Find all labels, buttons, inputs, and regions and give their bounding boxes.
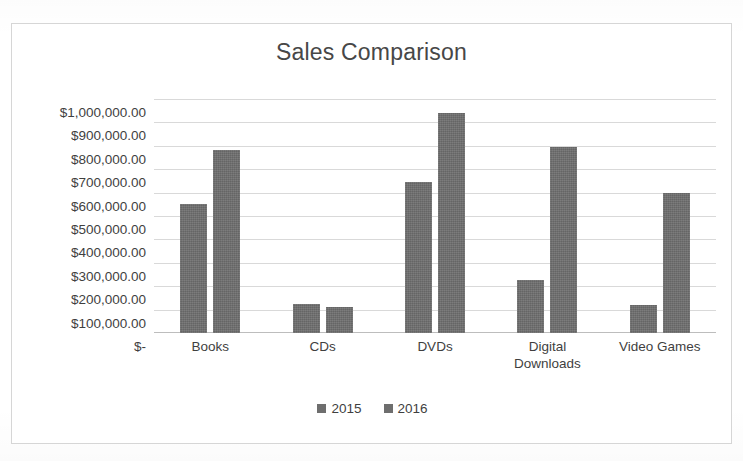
plot-wrapper: $1,000,000.00$900,000.00$800,000.00$700,… — [12, 24, 733, 445]
bar-group — [491, 99, 603, 333]
y-axis-tick-label: $100,000.00 — [71, 317, 146, 331]
bar-2016[interactable] — [326, 307, 353, 333]
y-axis-tick-label: $800,000.00 — [71, 153, 146, 167]
bar-2016[interactable] — [213, 150, 240, 333]
bar-2015[interactable] — [517, 280, 544, 333]
bar-group — [154, 99, 266, 333]
legend-swatch-icon — [317, 404, 326, 413]
bar-2015[interactable] — [293, 304, 320, 333]
y-axis-tick-label: $600,000.00 — [71, 200, 146, 214]
bar-2016[interactable] — [663, 193, 690, 333]
legend-label: 2016 — [398, 402, 428, 416]
bar-group — [266, 99, 378, 333]
bar-2015[interactable] — [630, 305, 657, 333]
legend-label: 2015 — [331, 402, 361, 416]
bar-2016[interactable] — [550, 147, 577, 333]
y-axis-tick-label: $900,000.00 — [71, 130, 146, 144]
y-axis-tick-label: $500,000.00 — [71, 223, 146, 237]
x-axis-category-label: Digital Downloads — [491, 339, 603, 373]
legend-item-2015[interactable]: 2015 — [317, 402, 361, 416]
x-axis-category-label: DVDs — [379, 339, 491, 373]
y-axis-tick-label: $400,000.00 — [71, 247, 146, 261]
legend-item-2016[interactable]: 2016 — [384, 402, 428, 416]
x-axis-category-label: CDs — [266, 339, 378, 373]
x-axis-category-label: Books — [154, 339, 266, 373]
y-axis-tick-label: $- — [134, 340, 146, 354]
y-axis-tick-labels: $1,000,000.00$900,000.00$800,000.00$700,… — [18, 113, 146, 348]
y-axis-tick-label: $700,000.00 — [71, 176, 146, 190]
y-axis-tick-label: $200,000.00 — [71, 293, 146, 307]
bar-2015[interactable] — [180, 204, 207, 333]
x-axis-category-labels: BooksCDsDVDsDigital DownloadsVideo Games — [154, 339, 716, 373]
legend-swatch-icon — [384, 404, 393, 413]
x-axis-category-label: Video Games — [604, 339, 716, 373]
bars-layer — [154, 99, 716, 333]
chart-container[interactable]: Sales Comparison $1,000,000.00$900,000.0… — [11, 23, 732, 444]
y-axis-tick-label: $300,000.00 — [71, 270, 146, 284]
chart-legend: 20152016 — [12, 402, 733, 416]
bar-2015[interactable] — [405, 182, 432, 333]
bar-group — [379, 99, 491, 333]
bar-2016[interactable] — [438, 113, 465, 333]
plot-area — [154, 99, 716, 333]
y-axis-tick-label: $1,000,000.00 — [60, 106, 146, 120]
bar-group — [604, 99, 716, 333]
